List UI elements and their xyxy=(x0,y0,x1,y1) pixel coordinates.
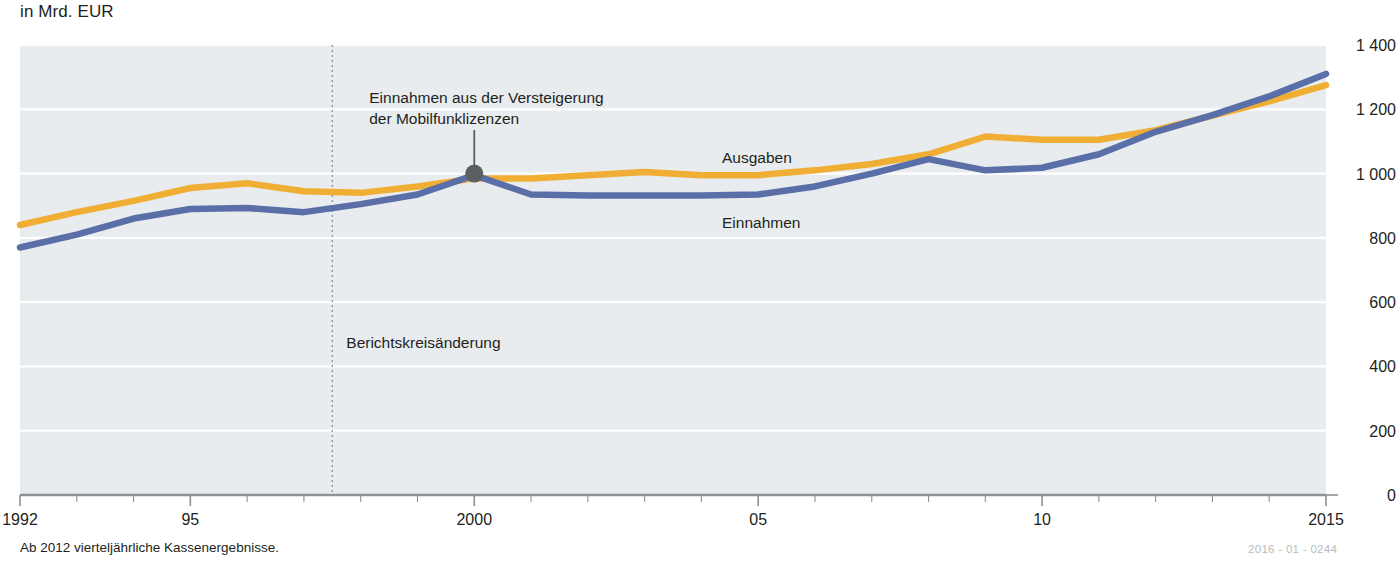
y-tick-label: 600 xyxy=(1369,294,1396,311)
y-tick-label: 1 400 xyxy=(1356,37,1396,54)
y-tick-label: 200 xyxy=(1369,423,1396,440)
series-label-ausgaben: Ausgaben xyxy=(722,149,792,166)
x-tick-label: 95 xyxy=(181,511,199,528)
x-tick-label: 10 xyxy=(1033,511,1051,528)
x-axis-ticks xyxy=(20,495,1326,506)
annotation-break-label: Berichtskreisänderung xyxy=(346,334,500,351)
series-label-einnahmen: Einnahmen xyxy=(722,214,800,231)
x-tick-label: 1992 xyxy=(2,511,38,528)
plot-background xyxy=(20,45,1326,495)
line-chart-svg: 199295200005102015 02004006008001 0001 2… xyxy=(0,0,1400,572)
y-tick-label: 0 xyxy=(1387,487,1396,504)
y-tick-label: 1 200 xyxy=(1356,101,1396,118)
x-tick-label: 05 xyxy=(749,511,767,528)
y-tick-label: 800 xyxy=(1369,230,1396,247)
chart-id-code: 2016 - 01 - 0244 xyxy=(1248,543,1337,555)
x-axis-labels: 199295200005102015 xyxy=(2,511,1344,528)
y-tick-label: 1 000 xyxy=(1356,166,1396,183)
annotation-auction-line2: der Mobilfunklizenzen xyxy=(369,110,519,127)
chart-footnote: Ab 2012 vierteljährliche Kassenergebniss… xyxy=(20,540,279,555)
x-tick-label: 2015 xyxy=(1308,511,1344,528)
chart-container: 199295200005102015 02004006008001 0001 2… xyxy=(0,0,1400,572)
annotation-marker-dot xyxy=(465,165,483,183)
x-tick-label: 2000 xyxy=(456,511,492,528)
y-tick-label: 400 xyxy=(1369,358,1396,375)
y-axis-labels: 02004006008001 0001 2001 400 xyxy=(1326,37,1396,504)
annotation-auction-line1: Einnahmen aus der Versteigerung xyxy=(369,89,603,106)
